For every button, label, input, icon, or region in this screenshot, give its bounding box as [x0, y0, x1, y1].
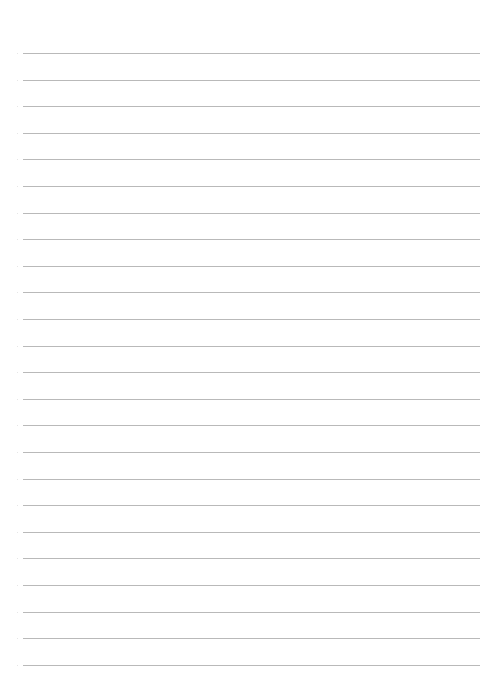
margin-dot [17, 372, 18, 373]
margin-dot [17, 505, 18, 506]
ruled-line [23, 266, 480, 267]
margin-dot [17, 638, 18, 639]
margin-dot [17, 452, 18, 453]
margin-dot [17, 106, 18, 107]
ruled-line [23, 585, 480, 586]
margin-dot [17, 159, 18, 160]
ruled-line [23, 425, 480, 426]
lined-paper-page [0, 0, 497, 693]
margin-dot [17, 479, 18, 480]
ruled-line [23, 53, 480, 54]
ruled-line [23, 558, 480, 559]
ruled-line [23, 399, 480, 400]
ruled-line [23, 292, 480, 293]
ruled-line [23, 612, 480, 613]
margin-dot [17, 213, 18, 214]
margin-dot [17, 133, 18, 134]
ruled-line [23, 452, 480, 453]
ruled-line [23, 479, 480, 480]
margin-dot [17, 399, 18, 400]
margin-dot [17, 186, 18, 187]
ruled-line [23, 346, 480, 347]
margin-dot [17, 585, 18, 586]
margin-dot [17, 239, 18, 240]
margin-dot [17, 292, 18, 293]
ruled-line [23, 239, 480, 240]
ruled-line [23, 665, 480, 666]
ruled-line [23, 133, 480, 134]
ruled-line [23, 106, 480, 107]
ruled-line [23, 213, 480, 214]
ruled-line [23, 80, 480, 81]
margin-dot [17, 665, 18, 666]
ruled-line [23, 372, 480, 373]
margin-dot [17, 612, 18, 613]
ruled-line [23, 505, 480, 506]
margin-dot [17, 346, 18, 347]
margin-dot [17, 532, 18, 533]
margin-dot [17, 266, 18, 267]
margin-dot [17, 319, 18, 320]
ruled-line [23, 319, 480, 320]
ruled-line [23, 186, 480, 187]
margin-dot [17, 425, 18, 426]
ruled-line [23, 159, 480, 160]
margin-dot [17, 80, 18, 81]
ruled-line [23, 532, 480, 533]
margin-dot [17, 558, 18, 559]
ruled-line [23, 638, 480, 639]
margin-dot [17, 53, 18, 54]
